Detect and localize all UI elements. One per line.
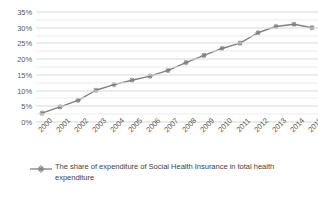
data-point-marker [165,68,170,73]
gridline [36,74,318,75]
y-tick-label: 20% [17,55,32,64]
gridline-minor [36,51,318,52]
y-axis: 0%5%10%15%20%25%30%35% [0,0,34,140]
y-tick-label: 30% [17,23,32,32]
data-point-marker [291,22,296,27]
gridline [36,12,318,13]
chart-legend: The share of expenditure of Social Healt… [0,162,318,183]
y-tick-label: 0% [21,118,32,127]
data-point-marker [183,60,188,65]
gridline-minor [36,19,318,20]
y-tick-label: 35% [17,8,32,17]
y-tick-label: 15% [17,70,32,79]
y-tick-label: 25% [17,39,32,48]
gridline-minor [36,67,318,68]
line-chart: 0%5%10%15%20%25%30%35% 20002001200220032… [0,0,318,198]
gridline [36,106,318,107]
data-point-marker [201,53,206,58]
legend-label: The share of expenditure of Social Healt… [55,162,285,183]
y-tick-label: 5% [21,102,32,111]
gridline [36,90,318,91]
y-tick-label: 10% [17,86,32,95]
series-polyline [42,24,312,113]
gridline-minor [36,98,318,99]
gridline [36,43,318,44]
gridline [36,27,318,28]
gridline [36,59,318,60]
gridline-minor [36,82,318,83]
gridline-minor [36,35,318,36]
gridline-minor [36,114,318,115]
legend-marker-icon [30,163,52,175]
x-axis: 2000200120022003200420052006200720082009… [36,122,318,162]
